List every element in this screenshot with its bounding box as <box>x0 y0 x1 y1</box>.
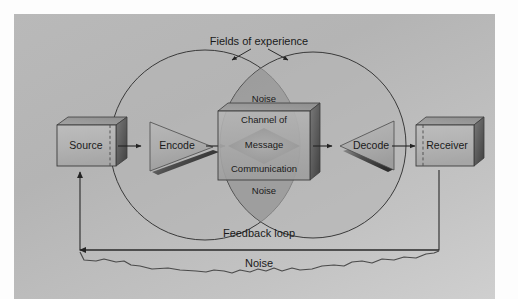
channel-box-side <box>310 103 320 180</box>
source-box-side <box>116 117 127 166</box>
noise-bottom-label: Noise <box>245 257 273 269</box>
communication-model-svg: Source Encode Noise Channel of Message C… <box>0 0 518 299</box>
receiver-box-side <box>474 117 484 166</box>
receiver-label: Receiver <box>426 139 468 151</box>
decode-label: Decode <box>353 139 389 151</box>
message-label: Message <box>245 139 284 150</box>
noise-top-label: Noise <box>252 93 276 104</box>
encode-label: Encode <box>159 139 195 151</box>
noise-bottom-inner-label: Noise <box>252 185 276 196</box>
channel-line2-label: Communication <box>231 163 297 174</box>
receiver-box-top <box>416 117 484 125</box>
feedback-loop-label: Feedback loop <box>223 227 295 239</box>
source-label: Source <box>69 139 102 151</box>
node-channel[interactable]: Noise Channel of Message Communication N… <box>218 93 320 196</box>
channel-line1-label: Channel of <box>241 114 287 125</box>
source-box-top <box>57 117 127 125</box>
fields-of-experience-label: Fields of experience <box>210 35 308 47</box>
node-source[interactable]: Source <box>57 117 127 166</box>
channel-box-top <box>218 103 320 111</box>
node-receiver[interactable]: Receiver <box>416 117 484 166</box>
diagram-canvas: Source Encode Noise Channel of Message C… <box>0 0 518 299</box>
